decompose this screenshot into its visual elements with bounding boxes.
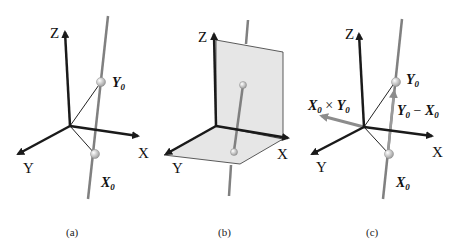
z-axis-label: Z xyxy=(198,29,207,45)
point-x0 xyxy=(385,150,394,159)
y-axis-label: Y xyxy=(316,159,327,175)
panel-c: Z X Y Y0 X0 X0 × Y0 Y0 − X0 (c) xyxy=(307,19,443,239)
x-axis-label: X xyxy=(432,144,443,160)
point-lower xyxy=(231,149,238,156)
caption-a: (a) xyxy=(66,226,79,239)
difference-label: Y0 − X0 xyxy=(397,103,439,120)
y-axis xyxy=(312,127,364,154)
y-axis xyxy=(18,126,70,154)
vector-cross-product xyxy=(322,116,364,127)
cross-product-label: X0 × Y0 xyxy=(307,98,350,115)
vector-y0-minus-x0 xyxy=(388,92,394,153)
caption-b: (b) xyxy=(218,226,231,239)
z-axis xyxy=(359,34,364,127)
y-axis-label: Y xyxy=(23,160,34,176)
z-axis xyxy=(65,32,70,126)
y0-label: Y0 xyxy=(112,75,126,92)
line-l-bottom xyxy=(229,165,231,196)
x0-label: X0 xyxy=(100,175,115,192)
point-x0 xyxy=(91,150,100,159)
caption-c: (c) xyxy=(366,226,379,239)
line-l-top xyxy=(246,20,248,44)
z-axis-label: Z xyxy=(50,25,59,41)
x-axis-label: X xyxy=(138,145,149,161)
z-axis-label: Z xyxy=(345,26,354,42)
y-axis-label: Y xyxy=(172,160,183,176)
panel-a: Z X Y Y0 X0 (a) xyxy=(18,16,149,239)
x0-label: X0 xyxy=(395,175,410,192)
y0-label: Y0 xyxy=(406,72,420,89)
panel-b: Z X Y (b) xyxy=(164,20,288,239)
x-axis-label: X xyxy=(277,146,288,162)
line-l xyxy=(88,16,108,199)
point-y0 xyxy=(97,78,106,87)
point-upper xyxy=(240,82,247,89)
x-axis xyxy=(364,127,432,136)
plane-xz xyxy=(216,40,283,139)
point-y0 xyxy=(392,78,401,87)
x-axis xyxy=(70,126,138,136)
figure: Z X Y Y0 X0 (a) Z X Y (b) xyxy=(0,0,460,249)
